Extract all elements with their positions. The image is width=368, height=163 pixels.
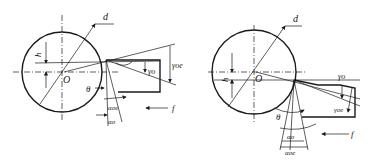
tool-height-line — [35, 61, 160, 63]
reference-line-1 — [64, 44, 175, 72]
tool-body — [106, 60, 160, 92]
right-panel: d h O γo γoe θ αo αoe f — [208, 13, 360, 157]
flank-line-2 — [294, 80, 308, 150]
label-o: O — [255, 73, 262, 84]
label-alpha-oe: αoe — [285, 149, 295, 157]
flank-line-1 — [106, 60, 108, 126]
label-d: d — [293, 13, 299, 24]
rake-face-line — [106, 60, 176, 85]
label-alpha-oe: αoe — [108, 104, 118, 112]
label-gamma-oe: γoe — [334, 106, 343, 114]
tool-body — [294, 80, 355, 117]
label-o: O — [63, 74, 70, 85]
label-h: h — [33, 52, 43, 57]
label-gamma-o: γo — [338, 72, 345, 81]
label-theta: θ — [86, 84, 91, 94]
label-f: f — [172, 103, 176, 113]
label-f: f — [351, 129, 355, 139]
label-gamma-o: γo — [148, 67, 155, 76]
label-theta: θ — [276, 112, 281, 122]
label-d: d — [103, 11, 109, 22]
lower-arc — [280, 124, 316, 129]
diameter-line — [228, 26, 285, 107]
label-alpha-o: αo — [108, 118, 116, 126]
left-panel: d h O γo γoe θ αoe αo f — [13, 11, 183, 126]
gamma-oe-dim — [348, 88, 352, 112]
rake-face-line — [294, 80, 360, 106]
flank-line-2 — [106, 60, 122, 122]
label-h: h — [220, 77, 230, 82]
label-alpha-o: αo — [287, 133, 295, 141]
diagram-canvas: d h O γo γoe θ αoe αo f — [0, 0, 368, 163]
label-gamma-oe: γoe — [172, 61, 183, 70]
